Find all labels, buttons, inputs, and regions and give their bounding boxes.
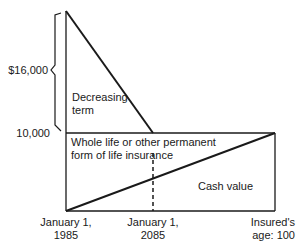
whole-life-label: Whole life or other permanent form of li… [71,136,216,162]
brace-icon [51,13,61,131]
cash-value-label: Cash value [198,180,253,193]
y-label-16000: $16,000 [0,64,48,77]
x-label-1985: January 1, 1985 [36,216,96,242]
insurance-diagram [0,0,303,245]
x-label-2085: January 1, 2085 [123,216,183,242]
decreasing-term-label: Decreasing term [72,91,128,117]
y-label-10000: 10,000 [0,127,50,140]
x-label-age-100: Insured's age: 100 [240,216,295,242]
